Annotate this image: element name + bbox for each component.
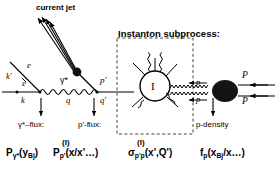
momentum-q-prime-label: q'	[100, 96, 106, 105]
cross-section-sub: p'p	[135, 152, 145, 159]
p-prime-flux-formula: Pp'(x/x'…)	[53, 148, 98, 160]
proton-density-formula: fp(xBj/x…)	[200, 148, 245, 160]
diagram-canvas: current jet Instanton subprocess: e e k'…	[0, 0, 277, 178]
cross-section-base: σ	[128, 147, 135, 158]
p-prime-flux-superscript: (I)	[62, 139, 70, 147]
photon-propagator	[40, 90, 97, 95]
gamma-flux-caption: γ*–flux:	[18, 121, 44, 129]
electron-out-label: e	[27, 61, 31, 70]
gamma-flux-arg: (y	[19, 147, 28, 158]
current-jet-label: current jet	[36, 4, 75, 12]
instanton-vertex	[132, 52, 178, 108]
electron-photon-vertex	[38, 90, 41, 93]
electron-in-label: e	[22, 79, 26, 88]
photon-label: γ*	[60, 76, 68, 85]
p-density-caption: p-density	[196, 121, 228, 129]
proton-density-arg-end: /x…)	[223, 147, 245, 158]
proton-blob	[212, 80, 238, 102]
gluon-lines-to-instanton	[170, 85, 208, 95]
struck-parton-line	[78, 73, 97, 92]
p-prime-flux-base: P	[53, 147, 60, 158]
momentum-k-label: k	[21, 96, 25, 105]
momentum-q-label: q	[66, 96, 70, 105]
proton-P-lower-label: P	[242, 97, 248, 107]
gluon-p-upper-label: p	[196, 78, 200, 87]
gamma-flux-formula: Pγ*(yBj)	[6, 148, 38, 160]
cross-section-formula: σp'p(x',Q')	[128, 148, 172, 160]
instanton-subprocess-label: Instanton subprocess:	[118, 29, 220, 39]
instanton-label: I	[151, 81, 155, 92]
momentum-k-prime-label: k'	[6, 72, 12, 81]
proton-P-upper-label: P	[242, 71, 248, 81]
gamma-flux-arg-end: )	[35, 147, 38, 158]
gluon-p-lower-label: p	[196, 95, 200, 104]
cross-section-arg: (x',Q')	[145, 147, 173, 158]
cross-section-superscript: (I)	[137, 139, 145, 147]
baseline-dot	[16, 91, 19, 94]
proton-incoming-lines	[238, 85, 275, 96]
p-prime-flux-arg: (x/x'…)	[65, 147, 98, 158]
gamma-flux-base: P	[6, 147, 13, 158]
p-prime-flux-caption: p'-flux:	[78, 121, 101, 129]
jet-vertex-blob	[73, 68, 82, 77]
parton-p-prime-label: p'	[100, 76, 106, 85]
gamma-flux-arg-sub: Bj	[28, 152, 35, 159]
current-jet-lines	[38, 17, 78, 73]
